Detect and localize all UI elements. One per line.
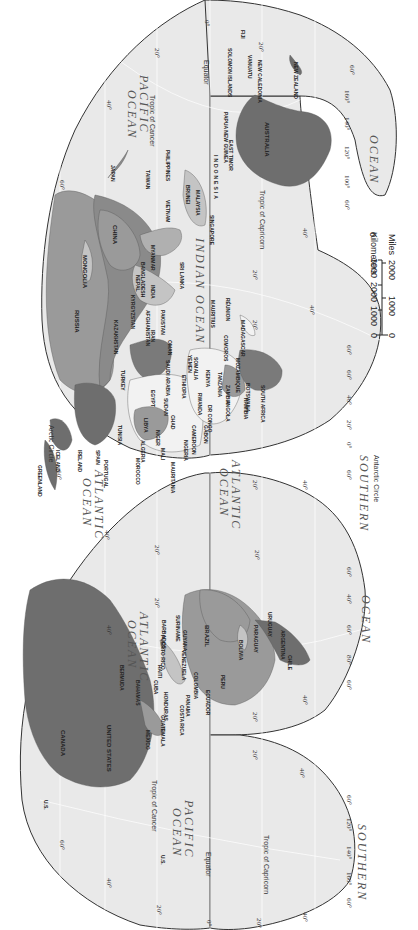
country-label-bahamas: BAHAMAS <box>135 680 140 706</box>
country-label-singapore: SINGAPORE <box>209 215 214 245</box>
country-label-kyrgyzstan: KYRGYZSTAN <box>130 295 135 329</box>
country-label-brazil: BRAZIL <box>204 625 210 647</box>
country-label-new-zealand: NEW ZEALAND <box>293 62 298 99</box>
ocean-label-atlantic-se: ATLANTIC <box>230 460 242 530</box>
country-label-niger: NIGER <box>155 430 160 446</box>
country-label-mongolia: MONGOLIA <box>82 255 88 288</box>
country-label-new-caledonia: NEW CALEDONIA <box>257 60 262 103</box>
country-label-mexico: MEXICO <box>145 730 150 750</box>
country-label-iran: IRAN <box>150 330 155 342</box>
country-label-libya: LIBYA <box>143 418 148 433</box>
label-equator-east: Equator <box>203 60 210 85</box>
country-label-australia: AUSTRALIA <box>264 122 270 157</box>
deg-label: 60° <box>343 200 350 210</box>
country-label-botswana: BOTSWANA <box>245 383 250 412</box>
deg-label: 60° <box>345 625 352 635</box>
country-label-myanmar: MYANMAR <box>150 245 155 271</box>
deg-label: 60° <box>55 470 62 480</box>
deg-label: 60° <box>345 567 352 577</box>
country-label-india: INDIA <box>150 285 155 299</box>
deg-label: 160° <box>345 872 352 885</box>
country-label-pakistan: PAKISTAN <box>160 310 165 335</box>
country-label-russia: RUSSIA <box>74 310 80 333</box>
country-label-egypt: EGYPT <box>150 390 155 407</box>
deg-label: 40° <box>301 912 308 922</box>
deg-label: 120° <box>343 146 350 159</box>
deg-label: 140° <box>345 846 352 859</box>
label-tropic-capricorn-west: Tropic of Capricorn <box>263 835 270 894</box>
deg-label: 20° <box>251 270 258 280</box>
country-label-saudi-arabia: SAUDI ARABIA <box>165 360 170 396</box>
deg-label: 160° <box>343 90 350 103</box>
country-label-chad: CHAD <box>170 415 175 429</box>
country-label-cuba: CUBA <box>153 680 158 694</box>
scale-mi-unit: Miles <box>387 234 396 255</box>
country-label-fiji: FIJI <box>240 30 245 39</box>
scale-km-unit: Kilometers <box>369 232 378 275</box>
country-label-costa-rica: COSTA RICA <box>179 705 184 736</box>
country-label-mauritius: MAURITIUS <box>210 300 215 328</box>
deg-label: 60° <box>348 65 355 75</box>
deg-label: 20° <box>255 918 262 928</box>
scale-km-2000: 2000 <box>369 282 378 302</box>
ocean-label-pacific-west-2: OCEAN <box>126 90 138 139</box>
world-map <box>0 0 418 930</box>
country-label-south-africa: SOUTH AFRICA <box>260 385 265 423</box>
country-label-nigeria: NIGERIA <box>183 440 188 461</box>
country-label-sudan: SUDAN <box>163 398 168 416</box>
country-label-united-states: UNITED STATES <box>106 725 112 772</box>
country-label-kenya: KENYA <box>205 370 210 387</box>
deg-label: 20° <box>257 42 264 52</box>
deg-label: 60° <box>345 795 352 805</box>
deg-label: 40° <box>301 480 308 490</box>
deg-label: 40° <box>345 395 352 405</box>
ocean-label-atlantic-nw: ATLANTIC <box>138 612 150 682</box>
deg-label: 20° <box>345 420 352 430</box>
country-label-ethiopia: ETHIOPIA <box>181 375 186 399</box>
label-tropic-cancer-east: Tropic of Cancer <box>149 95 156 146</box>
deg-label: 0° <box>345 442 352 448</box>
scale-mi-2000: 2000 <box>387 260 396 280</box>
country-label-sri-lanka: SRI LANKA <box>179 262 184 289</box>
deg-label: 40° <box>301 228 308 238</box>
deg-label: 20° <box>251 480 258 490</box>
country-label-iceland: ICELAND <box>55 450 60 472</box>
deg-label: 20° <box>153 545 160 555</box>
label-antarctic-circle: Antarctic Circle <box>373 455 380 502</box>
country-label-turkey: TURKEY <box>120 370 125 391</box>
country-label-ireland: IRELAND <box>77 450 82 472</box>
country-label-portugal: PORTUGAL <box>103 460 108 488</box>
deg-label: 0° <box>203 20 210 26</box>
country-label-mali: MALI <box>160 448 165 460</box>
country-label-colombia: COLOMBIA <box>193 672 198 699</box>
country-label-madagascar: MADAGASCAR <box>240 320 245 357</box>
ocean-label-sa-ocean: OCEAN <box>360 595 372 644</box>
country-label-mauritania: MAURITANIA <box>170 462 175 493</box>
country-label-bolivia: BOLIVIA <box>238 640 243 660</box>
country-label-china: CHINA <box>112 225 118 244</box>
country-label-kazakhstan: KAZAKHSTAN <box>113 320 118 354</box>
lobe-south-pacific <box>210 735 355 930</box>
country-label-solomon-islands: SOLOMON ISLANDS <box>227 48 232 97</box>
scale-km-0: 0 <box>369 333 378 338</box>
country-label-us-hawaii: U.S. <box>160 855 165 865</box>
country-label-papua-new-guinea: PAPUA NEW GUINEA <box>223 112 228 163</box>
country-label-ecuador: ECUADOR <box>205 690 210 715</box>
country-label-cameroon: CAMEROON <box>191 425 196 455</box>
deg-label: 20° <box>153 598 160 608</box>
deg-label: 40° <box>105 100 112 110</box>
deg-label: 60° <box>58 840 65 850</box>
ocean-label-southern-pacific: SOUTHERN <box>356 824 368 901</box>
country-label-panama: PANAMA <box>185 695 190 717</box>
scale-km-1000: 1000 <box>369 306 378 326</box>
country-label-philippines: PHILIPPINES <box>165 150 170 181</box>
country-label-greenland: GREENLAND <box>37 465 42 497</box>
label-arctic-circle: Arctic Circle <box>48 425 55 462</box>
country-label-us-alaska: U.S. <box>43 800 48 810</box>
deg-label: 40° <box>345 594 352 604</box>
country-label-comoros: COMOROS <box>223 335 228 361</box>
deg-label: 120° <box>345 818 352 831</box>
country-label-guatemala: GUATEMALA <box>160 715 165 747</box>
country-label-vanuatu: VANUATU <box>247 55 252 79</box>
country-label-venezuela: VENEZUELA <box>181 650 186 680</box>
